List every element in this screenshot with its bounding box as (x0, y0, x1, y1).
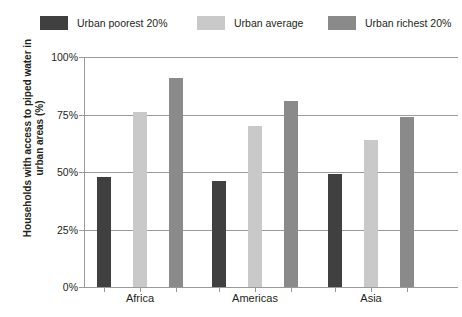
x-axis-tick (407, 287, 408, 292)
y-axis-tick (79, 230, 84, 231)
legend-item-urban-poorest: Urban poorest 20% (40, 13, 167, 33)
bar (364, 140, 378, 287)
x-axis-tick (219, 287, 220, 292)
x-axis-tick (335, 287, 336, 292)
legend-swatch-urban-average (197, 16, 225, 30)
legend-item-urban-average: Urban average (197, 13, 303, 33)
y-axis-tick-label: 50% (30, 167, 78, 178)
x-axis-tick (104, 287, 105, 292)
y-axis-tick-label: 25% (30, 225, 78, 236)
x-axis-category-label: Americas (205, 293, 305, 304)
bar (169, 78, 183, 287)
bar (248, 126, 262, 287)
x-axis-category-label: Asia (321, 293, 421, 304)
bar (328, 174, 342, 287)
bar (284, 101, 298, 287)
y-axis-tick-label: 75% (30, 110, 78, 121)
y-axis-tick (79, 172, 84, 173)
gridline (84, 57, 458, 58)
y-axis-tick-labels: 0%25%50%75%100% (30, 57, 78, 288)
legend-label-urban-average: Urban average (234, 18, 303, 29)
legend-swatch-urban-richest (328, 16, 356, 30)
bar (400, 117, 414, 287)
y-axis-tick (79, 115, 84, 116)
legend-label-urban-poorest: Urban poorest 20% (77, 18, 167, 29)
x-axis-category-label: Africa (90, 293, 190, 304)
plot-area (84, 57, 458, 287)
x-axis-tick (176, 287, 177, 292)
chart-legend: Urban poorest 20% Urban average Urban ri… (0, 13, 462, 33)
y-axis-tick (79, 57, 84, 58)
grouped-bar-chart: Urban poorest 20% Urban average Urban ri… (0, 0, 462, 317)
legend-label-urban-richest: Urban richest 20% (365, 18, 451, 29)
y-axis-tick-label: 0% (30, 282, 78, 293)
bar (97, 177, 111, 287)
bar (133, 112, 147, 287)
x-axis-tick (291, 287, 292, 292)
legend-item-urban-richest: Urban richest 20% (328, 13, 451, 33)
bar (212, 181, 226, 287)
y-axis-tick-label: 100% (30, 52, 78, 63)
